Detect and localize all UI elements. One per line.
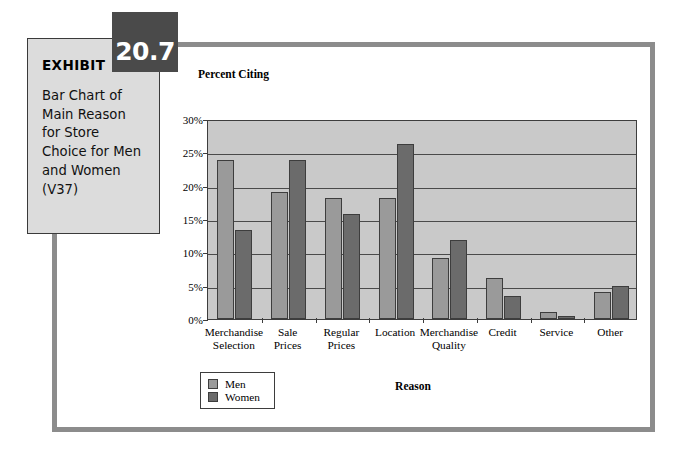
- legend-item-women: Women: [208, 391, 260, 403]
- x-tick-label: Merchandise Selection: [205, 326, 263, 352]
- bar-men: [379, 198, 396, 319]
- y-tick-label: 10%: [183, 247, 203, 259]
- y-axis-tick-labels: 0%5%10%15%20%25%30%: [178, 120, 203, 320]
- exhibit-number-badge: 20.7: [112, 12, 178, 72]
- bar-chart: Percent Citing 0%5%10%15%20%25%30% Merch…: [178, 60, 648, 425]
- y-tick-label: 20%: [183, 181, 203, 193]
- legend-label-men: Men: [225, 378, 246, 390]
- y-tick-label: 30%: [183, 114, 203, 126]
- y-tick-label: 15%: [183, 214, 203, 226]
- legend-swatch-women-icon: [208, 392, 218, 402]
- bar-women: [612, 286, 629, 319]
- legend-swatch-men-icon: [208, 379, 218, 389]
- x-tick-label: Sale Prices: [274, 326, 302, 352]
- gridline: [208, 154, 636, 155]
- bar-men: [594, 292, 611, 319]
- plot-area: [207, 120, 637, 320]
- y-tick-label: 0%: [188, 314, 203, 326]
- x-tick-label: Regular Prices: [323, 326, 359, 352]
- y-tick-label: 25%: [183, 147, 203, 159]
- bar-women: [289, 160, 306, 319]
- x-tick-label: Location: [375, 326, 415, 339]
- bar-women: [397, 144, 414, 319]
- bar-men: [432, 258, 449, 319]
- bar-women: [450, 240, 467, 319]
- bar-men: [271, 192, 288, 319]
- legend-label-women: Women: [225, 391, 260, 403]
- bar-women: [558, 316, 575, 319]
- y-tick-label: 5%: [188, 281, 203, 293]
- bar-men: [325, 198, 342, 319]
- chart-legend: Men Women: [200, 372, 275, 409]
- bar-women: [235, 230, 252, 319]
- bar-men: [486, 278, 503, 319]
- exhibit-description: Bar Chart of Main Reason for Store Choic…: [42, 87, 147, 199]
- x-axis-tick-labels: Merchandise SelectionSale PricesRegular …: [207, 321, 637, 361]
- gridline: [208, 188, 636, 189]
- bar-men: [217, 160, 234, 319]
- bar-women: [504, 296, 521, 319]
- x-tick-label: Other: [597, 326, 623, 339]
- y-axis-title: Percent Citing: [198, 68, 269, 80]
- x-tick-label: Credit: [489, 326, 517, 339]
- bar-men: [540, 312, 557, 319]
- x-tick-label: Merchandise Quality: [420, 326, 478, 352]
- x-tick-label: Service: [539, 326, 573, 339]
- bar-women: [343, 214, 360, 319]
- legend-item-men: Men: [208, 378, 260, 390]
